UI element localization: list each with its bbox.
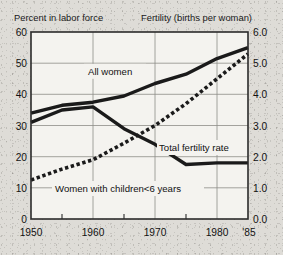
label-all-women: All women: [84, 64, 146, 79]
right-tick-4: 4.0: [253, 89, 267, 100]
label-all-women-text: All women: [88, 66, 132, 77]
right-axis-title: Fertility (births per woman): [141, 12, 252, 23]
left-axis-tick-labels: 60 50 40 30 20 10 0: [16, 27, 28, 225]
right-axis-tick-labels: 6.0 5.0 4.0 3.0 2.0 1.0 0.0: [253, 27, 267, 225]
left-tick-0: 0: [21, 214, 27, 225]
right-tick-1: 1.0: [253, 183, 267, 194]
label-total-fertility-rate-text: Total fertility rate: [159, 142, 229, 153]
x-tick-1980: 1980: [206, 227, 229, 238]
right-tick-6: 6.0: [253, 27, 267, 38]
left-tick-60: 60: [16, 27, 28, 38]
label-total-fertility-rate: Total fertility rate: [157, 140, 247, 155]
right-tick-5: 5.0: [253, 58, 267, 69]
right-tick-2: 2.0: [253, 152, 267, 163]
label-women-with-children-text: Women with children<6 years: [55, 183, 181, 194]
x-tick-85: '85: [242, 227, 256, 238]
x-axis-tick-labels: 1950 1960 1970 1980 '85: [20, 227, 256, 238]
label-women-with-children: Women with children<6 years: [52, 181, 204, 196]
left-tick-10: 10: [16, 183, 28, 194]
left-axis-title: Percent in labor force: [14, 12, 103, 23]
left-tick-40: 40: [16, 89, 28, 100]
left-tick-50: 50: [16, 58, 28, 69]
x-tick-1950: 1950: [20, 227, 43, 238]
right-tick-0: 0.0: [253, 214, 267, 225]
chart-svg: Percent in labor force Fertility (births…: [0, 0, 283, 255]
x-tick-1970: 1970: [144, 227, 167, 238]
left-tick-20: 20: [16, 152, 28, 163]
x-tick-1960: 1960: [82, 227, 105, 238]
left-tick-30: 30: [16, 121, 28, 132]
right-tick-3: 3.0: [253, 121, 267, 132]
chart-figure: Percent in labor force Fertility (births…: [0, 0, 283, 255]
